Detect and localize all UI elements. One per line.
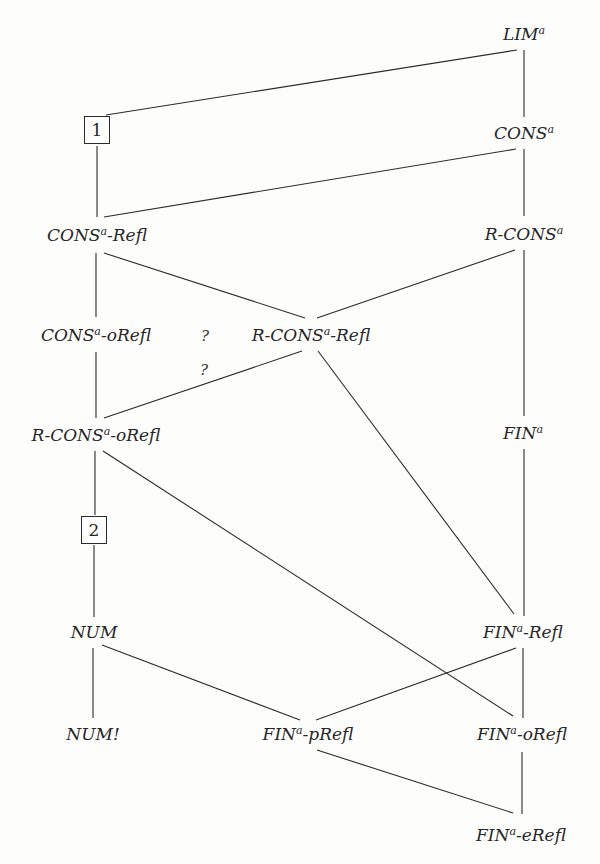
node-r-cons-refl: R-CONSa-Refl [250, 325, 373, 345]
node-fin-orefl: FINa-oRefl [475, 724, 569, 744]
edge-finrefl-finprefl [316, 648, 516, 720]
edge-rconsorefl-finorefl [103, 451, 513, 716]
node-num-bang: NUM! [64, 724, 121, 744]
node-fin-erefl: FINa-eRefl [474, 825, 568, 845]
edge-lim-box1 [106, 50, 517, 115]
node-box-1: 1 [84, 116, 110, 144]
node-fin-prefl: FINa-pRefl [261, 724, 356, 744]
question-mark-unknown-relation: ? [201, 327, 209, 345]
node-cons-refl: CONSa-Refl [45, 225, 149, 245]
edge-consrefl-rconsrefl [104, 253, 305, 318]
question-mark-unknown-edge: ? [200, 361, 208, 379]
hasse-diagram: LIMa 1 CONSa CONSa-Refl R-CONSa CONSa-oR… [0, 0, 600, 864]
edge-finprefl-finerefl [317, 750, 513, 813]
node-lim: LIMa [501, 24, 547, 44]
edge-cons-consrefl [104, 149, 516, 217]
node-fin: FINa [501, 423, 545, 443]
node-r-cons: R-CONSa [483, 224, 566, 244]
edge-num-finprefl [102, 645, 300, 720]
node-r-cons-orefl: R-CONSa-oRefl [30, 425, 163, 445]
edge-rconsrefl-finrefl [318, 351, 514, 614]
node-cons: CONSa [492, 123, 556, 143]
node-box-2: 2 [81, 516, 107, 544]
node-fin-refl: FINa-Refl [481, 622, 565, 642]
edge-rcons-rconsrefl [317, 250, 515, 318]
node-cons-orefl: CONSa-oRefl [39, 325, 153, 345]
node-num: NUM [69, 622, 120, 642]
